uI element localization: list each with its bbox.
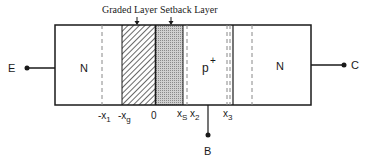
setback-layer-region bbox=[156, 25, 183, 105]
base-terminal-label: B bbox=[204, 145, 211, 157]
axis-label-zero: 0 bbox=[151, 110, 157, 121]
axis-label-x2: x2 bbox=[190, 108, 200, 122]
collector-terminal-dot bbox=[342, 63, 347, 68]
graded-layer-region bbox=[122, 25, 155, 105]
base-terminal-dot bbox=[206, 133, 211, 138]
collector-region-label: N bbox=[276, 60, 284, 72]
emitter-terminal-dot bbox=[25, 66, 30, 71]
axis-label-x3: x3 bbox=[223, 108, 233, 122]
graded-layer-label: Graded Layer bbox=[102, 4, 158, 15]
axis-label-xs: xS bbox=[177, 108, 187, 122]
axis-label-neg-xg: -xg bbox=[118, 110, 131, 124]
base-region-label: p bbox=[202, 61, 209, 75]
base-region-superscript: + bbox=[210, 55, 216, 66]
axis-label-neg-x1: -x1 bbox=[98, 110, 111, 124]
emitter-terminal-label: E bbox=[8, 62, 15, 74]
hbt-structure-diagram: Graded Layer Setback Layer N p + N E C B… bbox=[0, 0, 369, 162]
emitter-region-label: N bbox=[80, 62, 88, 74]
collector-terminal-label: C bbox=[351, 59, 359, 71]
setback-layer-label: Setback Layer bbox=[160, 4, 218, 15]
